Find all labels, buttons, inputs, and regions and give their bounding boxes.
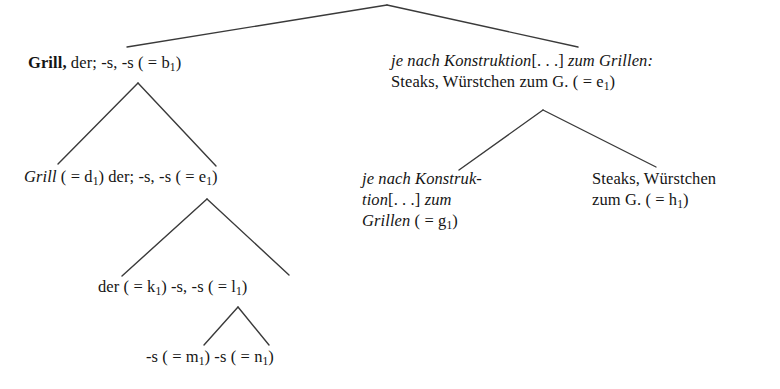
node-subscript: 1: [604, 80, 610, 92]
node-subscript: 1: [206, 175, 212, 187]
node-je-nach-konstruktion-g1: je nach Konstruk-tion[. . .] zumGrillen …: [362, 168, 482, 233]
node-line: je nach Konstruk-: [362, 168, 482, 189]
node-line: Steaks, Würstchen zum G. ( = e1): [391, 71, 653, 94]
node-subscript: 1: [93, 175, 99, 187]
node-s-m1-n1: -s ( = m1) -s ( = n1): [146, 346, 274, 369]
tree-edge-root-to-left: [127, 5, 387, 47]
tree-edge-root-to-right: [387, 5, 578, 47]
node-grill-d1-e1: Grill ( = d1) der; -s, -s ( = e1): [24, 166, 218, 189]
node-line: -s ( = m1) -s ( = n1): [146, 346, 274, 369]
tree-edge-e1-to-g1: [459, 110, 543, 170]
node-line: der ( = k1) -s, -s ( = l1): [98, 276, 247, 299]
tree-diagram-canvas: Grill, der; -s, -s ( = b1) je nach Konst…: [0, 0, 780, 389]
node-der-k1-l1: der ( = k1) -s, -s ( = l1): [98, 276, 247, 299]
node-subscript: 1: [262, 355, 268, 367]
node-subscript: 1: [446, 219, 452, 231]
node-subscript: 1: [236, 285, 242, 297]
tree-edge-b1-to-d1e1: [58, 83, 138, 164]
tree-edge-b1-to-right-stub: [138, 83, 216, 166]
node-grill-b1: Grill, der; -s, -s ( = b1): [28, 52, 181, 75]
node-line: tion[. . .] zum: [362, 189, 482, 210]
node-steaks-wuerstchen-h1: Steaks, Würstchenzum G. ( = h1): [592, 168, 716, 212]
node-subscript: 1: [199, 355, 205, 367]
node-line: je nach Konstruktion[. . .] zum Grillen:: [391, 50, 653, 71]
tree-edge-d1e1-to-right-stub: [207, 199, 289, 275]
tree-edge-k1l1-to-m1: [204, 307, 238, 345]
tree-edge-e1-to-h1: [543, 110, 656, 167]
node-subscript: 1: [677, 198, 683, 210]
node-line: Steaks, Würstchen: [592, 168, 716, 189]
node-subscript: 1: [155, 285, 161, 297]
node-line: Grill, der; -s, -s ( = b1): [28, 52, 181, 75]
node-je-nach-konstruktion-e1: je nach Konstruktion[. . .] zum Grillen:…: [391, 50, 653, 94]
node-line: Grill ( = d1) der; -s, -s ( = e1): [24, 166, 218, 189]
node-line: zum G. ( = h1): [592, 189, 716, 212]
node-line: Grillen ( = g1): [362, 210, 482, 233]
tree-edge-k1l1-to-n1: [238, 307, 269, 345]
figure-caption: [104, 376, 704, 388]
tree-edge-d1e1-to-k1l1: [122, 199, 207, 276]
node-subscript: 1: [170, 61, 176, 73]
